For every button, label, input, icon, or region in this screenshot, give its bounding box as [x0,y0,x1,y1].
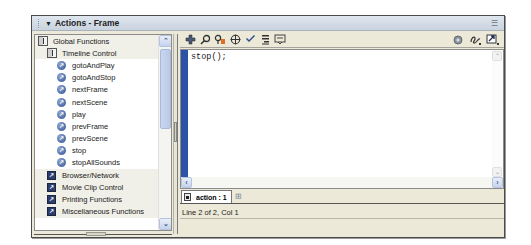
debug-options-icon[interactable] [468,33,482,46]
pin-script-icon[interactable] [184,193,191,201]
panel-titlebar[interactable]: ▼ Actions - Frame ☰ [32,16,504,31]
editor-scroll-down-button[interactable]: ⌄ [492,167,502,177]
scroll-down-button[interactable]: ⌄ [159,218,172,230]
function-icon: ↗ [57,61,66,70]
pane-divider[interactable] [173,34,178,234]
toolbox-item-label: Miscellaneous Functions [62,207,144,216]
panel-options-icon[interactable]: ☰ [489,19,499,28]
scroll-right-button[interactable]: › [492,177,503,188]
toolbox-item-prevscene[interactable]: ↗ prevScene [35,133,159,145]
function-icon: ↗ [57,85,66,94]
book-icon [47,48,57,58]
toolbox-item-label: prevFrame [72,122,108,131]
view-options-icon[interactable] [485,33,499,46]
toolbox-item-label: nextScene [72,98,107,107]
toolbox-item-play[interactable]: ↗ play [35,108,159,120]
toolbox-item-label: stop [72,146,86,155]
add-statement-icon[interactable] [183,33,197,46]
check-syntax-icon[interactable] [243,33,257,46]
editor-gutter [181,50,188,178]
show-code-hint-icon[interactable] [273,33,287,46]
toolbox-item-stop[interactable]: ↗ stop [35,145,159,157]
toolbox-item-label: Global Functions [53,37,109,46]
insert-target-path-icon[interactable] [228,33,242,46]
toolbox-item-miscellaneous-functions[interactable]: ↗ Miscellaneous Functions [35,206,159,218]
toolbox-item-nextframe[interactable]: ↗ nextFrame [35,84,159,96]
toolbox-item-label: Timeline Control [62,49,116,58]
category-icon: ↗ [47,171,56,180]
function-icon: ↗ [57,146,66,155]
editor-vertical-scrollbar[interactable]: ⌃ ⌄ [492,50,503,178]
toolbox-item-stopallsounds[interactable]: ↗ stopAllSounds [35,157,159,169]
toolbox-item-nextscene[interactable]: ↗ nextScene [35,96,159,108]
editor-horizontal-scrollbar[interactable]: ‹ › [181,177,503,188]
function-icon: ↗ [57,73,66,82]
toolbox-item-label: gotoAndPlay [72,61,115,70]
toolbar-right-group [449,33,500,46]
function-icon: ↗ [57,122,66,131]
toolbox-item-label: Printing Functions [62,195,122,204]
scroll-up-button[interactable]: ⌃ [159,35,172,47]
collapse-triangle-icon[interactable]: ▼ [45,20,52,27]
toolbox-item-browser-network[interactable]: ↗ Browser/Network [35,169,159,181]
function-icon: ↗ [57,98,66,107]
replace-icon[interactable] [213,33,227,46]
toolbox-item-label: play [72,110,86,119]
tab-label: action : 1 [196,194,227,201]
script-editor[interactable]: stop(); ⌃ ⌄ ‹ › [180,49,504,189]
scroll-left-button[interactable]: ‹ [181,177,192,188]
toolbox-item-timeline-control[interactable]: Timeline Control [35,47,159,59]
toolbox-item-label: gotoAndStop [72,73,115,82]
function-icon: ↗ [57,110,66,119]
category-icon: ↗ [47,183,56,192]
toolbox-item-global-functions[interactable]: Global Functions [35,35,159,47]
panel-grip[interactable] [38,19,40,28]
script-tabs: action : 1 ⊞ [180,190,504,204]
toolbox-item-gotoandstop[interactable]: ↗ gotoAndStop [35,72,159,84]
scroll-thumb[interactable] [160,49,171,129]
book-icon [38,36,48,46]
toolbox-tree: Global Functions Timeline Control ↗ goto… [35,35,159,230]
toolbox-item-movie-clip-control[interactable]: ↗ Movie Clip Control [35,181,159,193]
script-toolbar [180,32,504,48]
toolbox-item-label: stopAllSounds [72,158,120,167]
toolbox-item-label: nextFrame [72,85,108,94]
category-icon: ↗ [47,207,56,216]
editor-scroll-up-button[interactable]: ⌃ [492,51,502,61]
status-bar: Line 2 of 2, Col 1 [180,206,504,219]
actions-panel: ▼ Actions - Frame ☰ Global Functions Tim… [31,15,505,238]
toolbox-item-label: prevScene [72,134,108,143]
actions-toolbox: Global Functions Timeline Control ↗ goto… [34,34,172,231]
script-pin-add-icon[interactable]: ⊞ [235,192,245,201]
toolbox-item-label: Browser/Network [62,171,119,180]
tab-action-1[interactable]: action : 1 [181,190,232,203]
panel-title: Actions - Frame [55,18,119,28]
toolbox-item-prevframe[interactable]: ↗ prevFrame [35,120,159,132]
script-code[interactable]: stop(); [191,52,227,62]
category-icon: ↗ [47,195,56,204]
cursor-position: Line 2 of 2, Col 1 [182,208,239,217]
toolbox-item-label: Movie Clip Control [62,183,123,192]
pane-divider-grip[interactable] [174,122,177,142]
auto-format-icon[interactable] [258,33,272,46]
toolbox-item-gotoandplay[interactable]: ↗ gotoAndPlay [35,59,159,71]
find-icon[interactable] [198,33,212,46]
toolbox-scrollbar[interactable]: ⌃ ⌄ [158,35,171,230]
toolbox-splitter-handle[interactable] [86,232,106,236]
function-icon: ↗ [57,134,66,143]
reference-icon[interactable] [451,33,465,46]
toolbox-item-printing-functions[interactable]: ↗ Printing Functions [35,193,159,205]
function-icon: ↗ [57,158,66,167]
